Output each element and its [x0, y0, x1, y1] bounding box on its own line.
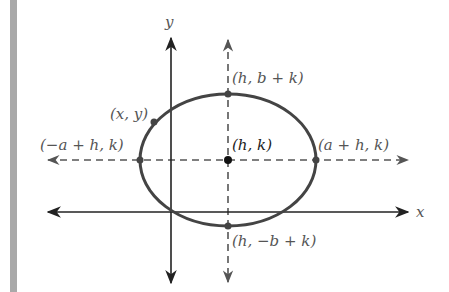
- label-right: (a + h, k): [318, 136, 389, 154]
- point-top: [225, 91, 232, 98]
- x-axis-label: x: [416, 203, 425, 221]
- label-general: (x, y): [110, 105, 148, 123]
- ellipse-diagram: y x (h, b + k) (h, −b + k) (−a + h, k) (…: [0, 0, 449, 292]
- label-center: (h, k): [232, 136, 272, 154]
- point-left: [137, 157, 144, 164]
- point-general: [151, 119, 158, 126]
- y-axis-label: y: [164, 13, 174, 31]
- point-center: [224, 156, 232, 164]
- point-bottom: [225, 223, 232, 230]
- label-bottom: (h, −b + k): [232, 232, 316, 250]
- label-top: (h, b + k): [232, 69, 304, 87]
- point-right: [313, 157, 320, 164]
- label-left: (−a + h, k): [40, 136, 124, 154]
